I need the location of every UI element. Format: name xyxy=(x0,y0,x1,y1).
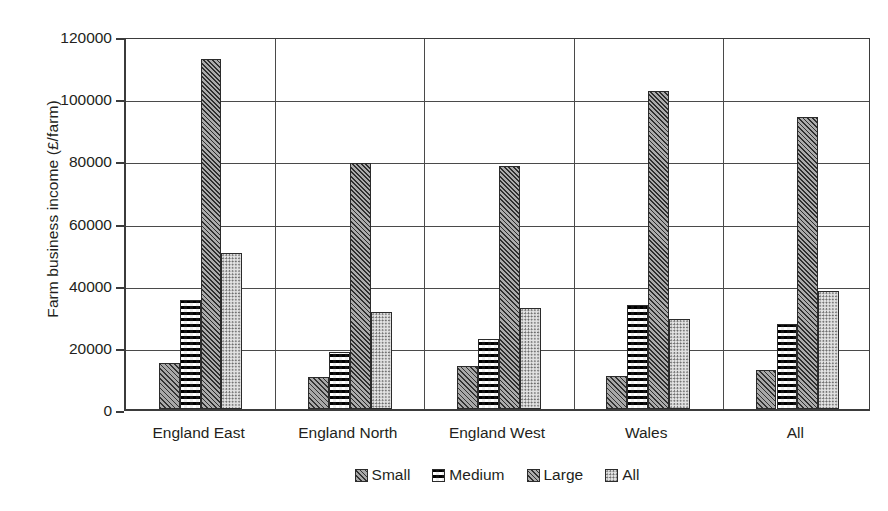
bar xyxy=(797,117,818,409)
legend-item: Medium xyxy=(432,466,504,484)
bar xyxy=(606,376,627,409)
y-tick-label: 80000 xyxy=(0,153,112,171)
bar xyxy=(350,163,371,409)
y-tick-label: 0 xyxy=(0,402,112,420)
y-tick-mark xyxy=(116,38,124,40)
bar xyxy=(308,377,329,409)
bar xyxy=(627,305,648,409)
bar xyxy=(777,324,798,409)
bar xyxy=(478,339,499,409)
x-tick-label: Wales xyxy=(625,424,668,442)
category-separator xyxy=(424,39,425,409)
y-tick-mark xyxy=(116,287,124,289)
legend-label: Medium xyxy=(449,466,504,484)
y-tick-mark xyxy=(116,100,124,102)
legend-item: All xyxy=(605,466,639,484)
checkerboard-swatch xyxy=(432,469,445,482)
bar xyxy=(818,291,839,409)
legend-label: Small xyxy=(372,466,411,484)
bar xyxy=(756,370,777,409)
dense-diagonal-hatch-swatch xyxy=(527,469,540,482)
bar xyxy=(669,319,690,409)
y-tick-mark xyxy=(116,411,124,413)
bar xyxy=(520,308,541,409)
x-tick-label: England East xyxy=(152,424,244,442)
bar xyxy=(221,253,242,409)
legend-label: All xyxy=(622,466,639,484)
bar xyxy=(180,300,201,409)
chart-legend: SmallMediumLargeAll xyxy=(124,466,870,484)
legend-label: Large xyxy=(544,466,584,484)
bar xyxy=(201,59,222,409)
y-tick-label: 60000 xyxy=(0,216,112,234)
legend-item: Large xyxy=(527,466,584,484)
dotted-swatch xyxy=(605,469,618,482)
bar xyxy=(648,91,669,409)
diagonal-hatch-swatch xyxy=(355,469,368,482)
plot-area xyxy=(124,38,870,411)
y-tick-mark xyxy=(116,162,124,164)
bar xyxy=(499,166,520,409)
legend-item: Small xyxy=(355,466,411,484)
category-separator xyxy=(275,39,276,409)
gridline xyxy=(126,101,869,102)
x-tick-label: All xyxy=(787,424,804,442)
bar xyxy=(159,363,180,409)
y-tick-label: 100000 xyxy=(0,91,112,109)
y-tick-mark xyxy=(116,349,124,351)
bar xyxy=(371,312,392,409)
category-separator xyxy=(723,39,724,409)
y-tick-mark xyxy=(116,225,124,227)
x-tick-label: England West xyxy=(449,424,545,442)
gridline xyxy=(126,163,869,164)
y-tick-label: 40000 xyxy=(0,278,112,296)
gridline xyxy=(126,226,869,227)
y-tick-label: 120000 xyxy=(0,29,112,47)
bar xyxy=(329,352,350,409)
category-separator xyxy=(574,39,575,409)
x-tick-label: England North xyxy=(298,424,397,442)
bar xyxy=(457,366,478,409)
bar-chart-figure: Farm business income (£/farm) 0200004000… xyxy=(0,0,888,511)
y-tick-label: 20000 xyxy=(0,340,112,358)
